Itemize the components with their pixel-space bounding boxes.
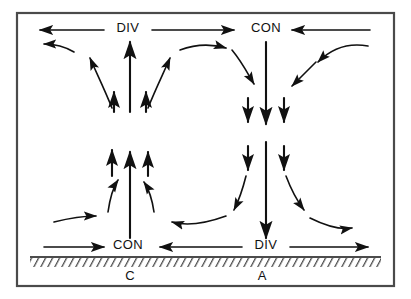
circulation-diagram-figure: DIV CON CON DIV C A bbox=[0, 0, 411, 299]
label-surface-left-con: CON bbox=[113, 237, 143, 252]
label-cyclone-c: C bbox=[125, 268, 134, 283]
label-anticyclone-a: A bbox=[258, 268, 267, 283]
label-upper-left-div: DIV bbox=[117, 20, 140, 35]
ground-hatching bbox=[30, 258, 381, 267]
label-upper-right-con: CON bbox=[251, 20, 281, 35]
ground-surface bbox=[30, 257, 381, 267]
diagram-canvas: DIV CON CON DIV C A bbox=[0, 0, 411, 299]
label-surface-right-div: DIV bbox=[255, 237, 278, 252]
